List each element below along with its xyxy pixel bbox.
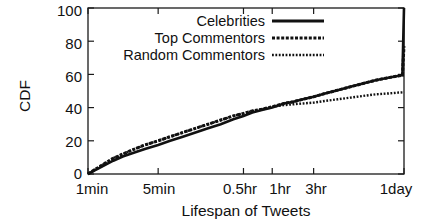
x-tick-label: 5min	[143, 180, 176, 197]
series-line-random-commentors	[88, 92, 404, 174]
cdf-line-chart: 100 80 60 40 20 0 1min 5min 0.5hr 1hr 3h…	[0, 0, 434, 224]
x-tick-label: 3hr	[305, 180, 327, 197]
x-tick-label: 0.5hr	[223, 180, 257, 197]
series-line-top-commentors	[88, 46, 404, 174]
chart-legend: Celebrities Top Commentors Random Commen…	[123, 13, 324, 63]
x-tick-label: 1hr	[269, 180, 291, 197]
legend-label-top-commentors: Top Commentors	[155, 30, 265, 46]
legend-label-celebrities: Celebrities	[197, 13, 266, 29]
chart-figure: 100 80 60 40 20 0 1min 5min 0.5hr 1hr 3h…	[0, 0, 434, 224]
y-tick-label: 80	[65, 35, 82, 52]
x-axis-tick-labels: 1min 5min 0.5hr 1hr 3hr 1day	[76, 180, 413, 197]
y-axis-title: CDF	[16, 80, 33, 112]
y-tick-label: 40	[65, 100, 82, 117]
y-tick-label: 60	[65, 68, 82, 85]
x-tick-label: 1min	[76, 180, 109, 197]
y-axis-tick-labels: 100 80 60 40 20 0	[57, 2, 82, 182]
y-tick-label: 100	[57, 2, 82, 19]
y-tick-label: 20	[65, 133, 82, 150]
x-tick-label: 1day	[380, 180, 413, 197]
legend-label-random-commentors: Random Commentors	[123, 47, 265, 63]
x-axis-title: Lifespan of Tweets	[182, 202, 311, 219]
